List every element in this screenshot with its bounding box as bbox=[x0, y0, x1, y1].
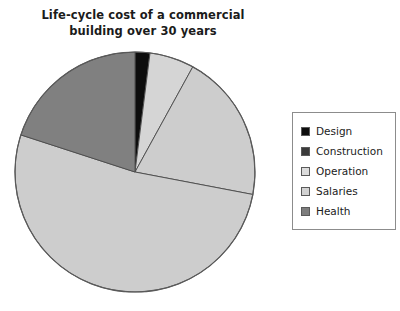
pie-slices bbox=[15, 52, 255, 292]
pie-svg bbox=[0, 0, 275, 311]
legend-item-operation[interactable]: Operation bbox=[301, 161, 388, 181]
legend-swatch-health bbox=[301, 207, 310, 216]
legend-item-health[interactable]: Health bbox=[301, 201, 388, 221]
pie-chart-figure: Life-cycle cost of a commercial building… bbox=[0, 0, 400, 311]
chart-legend: Design Construction Operation Salaries H… bbox=[292, 112, 396, 230]
legend-label-design: Design bbox=[316, 126, 352, 137]
legend-label-health: Health bbox=[316, 206, 350, 217]
legend-item-design[interactable]: Design bbox=[301, 121, 388, 141]
legend-label-salaries: Salaries bbox=[316, 186, 358, 197]
legend-swatch-design bbox=[301, 127, 310, 136]
legend-swatch-operation bbox=[301, 167, 310, 176]
legend-swatch-salaries bbox=[301, 187, 310, 196]
legend-swatch-construction bbox=[301, 147, 310, 156]
legend-label-operation: Operation bbox=[316, 166, 368, 177]
legend-item-construction[interactable]: Construction bbox=[301, 141, 388, 161]
legend-item-salaries[interactable]: Salaries bbox=[301, 181, 388, 201]
pie-plot-area bbox=[0, 0, 275, 311]
legend-label-construction: Construction bbox=[316, 146, 383, 157]
